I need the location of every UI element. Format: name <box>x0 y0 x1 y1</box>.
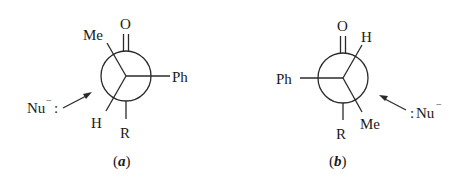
label-h-b: H <box>361 29 372 45</box>
caption-b: (b) <box>329 153 347 170</box>
label-o-b: O <box>337 18 348 34</box>
label-r-b: R <box>336 126 346 142</box>
nucleophile-a: Nu <box>27 100 46 116</box>
nucleophile-lone-pair-b: : <box>410 105 414 121</box>
bond-me-b <box>343 78 362 112</box>
label-ph-b: Ph <box>276 71 292 87</box>
attack-arrow-line-a <box>63 95 88 108</box>
attack-arrow-head-a <box>83 92 92 99</box>
panel-a: O Me Ph H R Nu − : (a) <box>27 16 188 170</box>
nucleophile-charge-a: − <box>46 95 52 106</box>
newman-projection-figure: O Me Ph H R Nu − : (a) O H Ph Me R <box>0 0 474 183</box>
nucleophile-charge-b: − <box>436 99 442 110</box>
label-r-a: R <box>120 125 130 141</box>
label-me-a: Me <box>83 27 103 43</box>
label-ph-a: Ph <box>172 69 188 85</box>
attack-arrow-line-b <box>383 98 406 110</box>
label-me-b: Me <box>360 116 380 132</box>
panel-b: O H Ph Me R : Nu − (b) <box>276 18 442 170</box>
nucleophile-lone-pair-a: : <box>54 100 58 116</box>
label-h-a: H <box>91 115 102 131</box>
label-o-a: O <box>120 16 131 32</box>
caption-a: (a) <box>113 153 131 170</box>
nucleophile-b: Nu <box>416 105 435 121</box>
